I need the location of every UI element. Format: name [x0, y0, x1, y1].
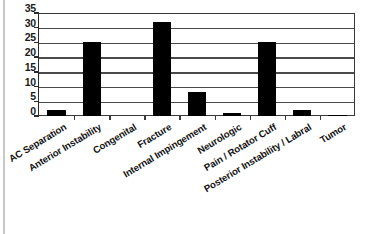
bar [258, 42, 276, 116]
y-axis-tick-labels: 05101520253035 [14, 8, 36, 118]
y-axis-tick-mark [34, 101, 39, 102]
y-axis-tick-label: 15 [14, 62, 36, 72]
category-label: Tumor [319, 122, 349, 145]
bar [83, 42, 101, 116]
x-axis-category-labels: AC SeparationAnterior InstabilityCongeni… [0, 116, 372, 234]
y-axis-tick-mark [34, 56, 39, 57]
y-axis-tick-mark [34, 42, 39, 43]
y-axis-tick-label: 25 [14, 32, 36, 42]
bars-layer [39, 13, 355, 116]
bar [188, 92, 206, 116]
y-axis-tick-mark [34, 86, 39, 87]
bar [153, 22, 171, 116]
bar-chart-figure: 05101520253035 AC SeparationAnterior Ins… [0, 0, 372, 234]
y-axis-tick-label: 5 [14, 91, 36, 101]
y-axis-tick-mark [34, 12, 39, 13]
y-axis-tick-label: 35 [14, 3, 36, 13]
y-axis-tick-label: 30 [14, 18, 36, 28]
y-axis-tick-label: 20 [14, 47, 36, 57]
y-axis-tick-label: 10 [14, 77, 36, 87]
y-axis-tick-mark [34, 115, 39, 116]
y-axis-tick-label: 0 [14, 106, 36, 116]
y-axis-tick-mark [34, 71, 39, 72]
y-axis-tick-mark [34, 27, 39, 28]
